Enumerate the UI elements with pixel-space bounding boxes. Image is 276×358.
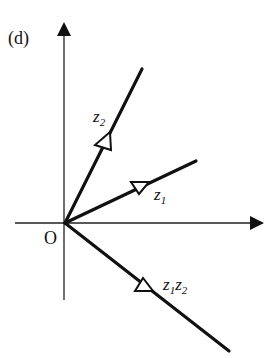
y-axis-arrow-icon (57, 22, 71, 36)
z1z2-label: z1z2 (162, 275, 188, 296)
complex-plane-diagram: (d) O z2 z1 z1z2 (0, 0, 276, 358)
x-axis-arrow-icon (250, 216, 264, 230)
z1-label: z1 (153, 185, 166, 206)
panel-label: (d) (8, 28, 29, 49)
z2-label: z2 (92, 107, 106, 128)
z2-direction-arrow-icon (95, 132, 111, 150)
origin-label: O (44, 228, 57, 248)
vector-z1 (65, 161, 196, 223)
